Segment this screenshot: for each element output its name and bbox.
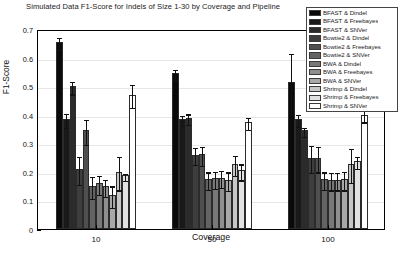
error-bar-cap [173, 70, 178, 71]
error-bar [248, 118, 249, 129]
error-bar-cap [246, 130, 251, 131]
error-bar-cap [206, 190, 211, 191]
bar [302, 130, 309, 229]
error-bar [304, 128, 305, 137]
error-bar [228, 172, 229, 191]
error-bar-cap [226, 172, 231, 173]
error-bar-cap [355, 157, 360, 158]
error-bar [112, 186, 113, 208]
legend-label: Bowtie2 & SNVer [323, 51, 370, 59]
error-bar [221, 171, 222, 188]
error-bar [351, 149, 352, 183]
legend-label: BFAST & SNVer [323, 26, 367, 34]
error-bar-cap [233, 176, 238, 177]
y-tick-label: 0 [0, 226, 33, 235]
error-bar [241, 164, 242, 180]
error-bar-cap [64, 114, 69, 115]
legend-item[interactable]: BWA & SNVer [308, 77, 396, 85]
error-bar [202, 147, 203, 166]
legend: BFAST & DindelBFAST & FreebayesBFAST & S… [306, 7, 398, 112]
bar [361, 115, 368, 229]
bar [354, 161, 361, 229]
error-bar [344, 172, 345, 191]
x-axis-label: Coverage [37, 232, 385, 242]
legend-item[interactable]: BWA & Dindel [308, 60, 396, 68]
error-bar-cap [130, 108, 135, 109]
error-bar-cap [302, 128, 307, 129]
error-bar [59, 38, 60, 51]
error-bar-cap [309, 173, 314, 174]
error-bar-cap [316, 172, 321, 173]
legend-item[interactable]: BFAST & Dindel [308, 9, 396, 17]
y-tick-label: 0.2 [0, 168, 33, 177]
legend-swatch [309, 10, 321, 16]
error-bar [208, 172, 209, 189]
legend-label: Bowtie2 & Freebayes [323, 43, 381, 51]
bar [186, 118, 193, 229]
error-bar [92, 177, 93, 199]
error-bar [175, 70, 176, 80]
legend-item[interactable]: Shrimp & Dindel [308, 85, 396, 93]
gridline [38, 145, 384, 146]
legend-label: Shrimp & Dindel [323, 85, 367, 93]
error-bar [188, 114, 189, 124]
legend-swatch [309, 52, 321, 58]
error-bar-cap [110, 208, 115, 209]
error-bar-cap [349, 183, 354, 184]
error-bar-cap [200, 147, 205, 148]
bar [56, 42, 63, 229]
error-bar [215, 172, 216, 189]
legend-item[interactable]: BFAST & Freebayes [308, 17, 396, 25]
legend-item[interactable]: Shrimp & Freebayes [308, 93, 396, 101]
error-bar-cap [329, 173, 334, 174]
y-tick-mark [37, 230, 41, 231]
legend-item[interactable]: BWA & Freebayes [308, 68, 396, 76]
error-bar-cap [335, 173, 340, 174]
error-bar [132, 85, 133, 108]
error-bar [357, 157, 358, 168]
legend-item[interactable]: Bowtie2 & Freebayes [308, 43, 396, 51]
legend-swatch [309, 19, 321, 25]
error-bar-cap [296, 127, 301, 128]
bar [129, 95, 136, 229]
error-bar [318, 147, 319, 173]
error-bar-cap [335, 190, 340, 191]
error-bar-cap [117, 157, 122, 158]
legend-item[interactable]: Bowtie2 & Dindel [308, 34, 396, 42]
chart-title: Simulated Data F1-Score for Indels of Si… [0, 2, 306, 11]
legend-swatch [309, 69, 321, 75]
error-bar [311, 146, 312, 173]
error-bar-cap [123, 181, 128, 182]
error-bar-cap [97, 195, 102, 196]
gridline [38, 117, 384, 118]
bar [63, 119, 70, 229]
legend-item[interactable]: BFAST & SNVer [308, 26, 396, 34]
legend-label: Shrimp & Freebayes [323, 93, 379, 101]
error-bar [324, 172, 325, 189]
error-bar-cap [316, 147, 321, 148]
error-bar-cap [233, 156, 238, 157]
error-bar-cap [355, 169, 360, 170]
legend-item[interactable]: Bowtie2 & SNVer [308, 51, 396, 59]
y-tick-label: 0.3 [0, 140, 33, 149]
bar [245, 122, 252, 229]
y-tick-label: 0.6 [0, 54, 33, 63]
error-bar-cap [349, 149, 354, 150]
y-tick-label: 0.5 [0, 83, 33, 92]
error-bar [72, 82, 73, 95]
error-bar-cap [193, 148, 198, 149]
error-bar-cap [90, 199, 95, 200]
error-bar-cap [200, 166, 205, 167]
error-bar-cap [239, 180, 244, 181]
error-bar-cap [97, 176, 102, 177]
y-tick-label: 0.1 [0, 197, 33, 206]
chart-root: Simulated Data F1-Score for Indels of Si… [0, 0, 400, 268]
error-bar-cap [219, 171, 224, 172]
error-bar-cap [103, 180, 108, 181]
legend-swatch [309, 86, 321, 92]
error-bar-cap [213, 189, 218, 190]
x-tick-mark [96, 225, 97, 229]
error-bar-cap [57, 50, 62, 51]
error-bar-cap [103, 197, 108, 198]
legend-item[interactable]: Shrimp & SNVer [308, 102, 396, 110]
